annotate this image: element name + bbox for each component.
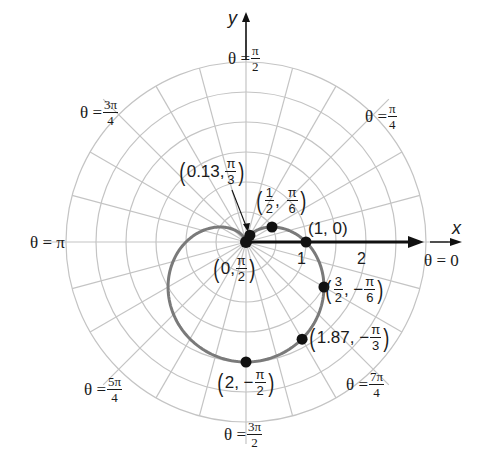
angle-label-3pi-2: θ = 3π2	[224, 420, 263, 449]
fraction: π2	[251, 44, 260, 73]
theta-eq: θ =	[224, 426, 246, 443]
point-label-32-negpi6: ( 32 , − π6 )	[324, 275, 385, 304]
angle-label-pi: θ = π	[30, 234, 65, 251]
point-label-half-pi6: ( 12 , π6 )	[255, 186, 307, 215]
angle-label-pi-2: θ = π2	[228, 44, 261, 73]
y-axis-label: y	[228, 8, 237, 29]
radial-tick-1: 1	[297, 250, 306, 268]
angle-label-3pi-4: θ = 3π4	[80, 98, 119, 127]
data-point	[297, 334, 308, 345]
fraction: π3	[370, 323, 381, 352]
y-axis-arrow-icon	[242, 12, 250, 22]
fraction: 32	[334, 275, 343, 304]
fraction: π4	[388, 102, 397, 131]
fraction: 12	[265, 186, 274, 215]
fraction: π2	[236, 254, 247, 283]
theta-eq: θ =	[346, 376, 368, 393]
x-axis-arrow-icon	[450, 238, 462, 246]
point-label-2-negpi2: ( 2, − π2 )	[216, 368, 275, 397]
fraction: π6	[364, 275, 375, 304]
point-label-013-pi3: ( 0.13, π3 )	[178, 157, 246, 186]
data-point	[244, 230, 255, 241]
fraction: 5π4	[107, 375, 122, 404]
theta-eq: θ =	[365, 108, 387, 125]
fraction: 3π4	[103, 98, 118, 127]
angle-label-5pi-4: θ = 5π4	[84, 375, 123, 404]
fraction: 7π4	[369, 370, 384, 399]
fraction: π2	[255, 368, 266, 397]
angle-label-pi-4: θ = π4	[365, 102, 398, 131]
point-label-0-pi2: ( 0, π2 )	[212, 254, 257, 283]
theta-eq: θ =	[80, 104, 102, 121]
x-axis-label: x	[452, 218, 461, 239]
theta-eq: θ =	[84, 381, 106, 398]
point-label-187-negpi3: ( 1.87, − π3 )	[308, 323, 391, 352]
point-label-1-0: (1, 0)	[308, 220, 348, 237]
theta-eq: θ =	[228, 50, 250, 67]
fraction: π6	[287, 186, 298, 215]
radial-tick-2: 2	[357, 250, 366, 268]
data-point	[240, 357, 251, 368]
fraction: 3π2	[247, 420, 262, 449]
angle-label-0: θ = 0	[424, 252, 459, 269]
data-point	[301, 237, 312, 248]
data-point	[266, 221, 277, 232]
polar-axis-arrow-icon	[408, 236, 424, 248]
fraction: π3	[225, 157, 236, 186]
angle-label-7pi-4: θ = 7π4	[346, 370, 385, 399]
